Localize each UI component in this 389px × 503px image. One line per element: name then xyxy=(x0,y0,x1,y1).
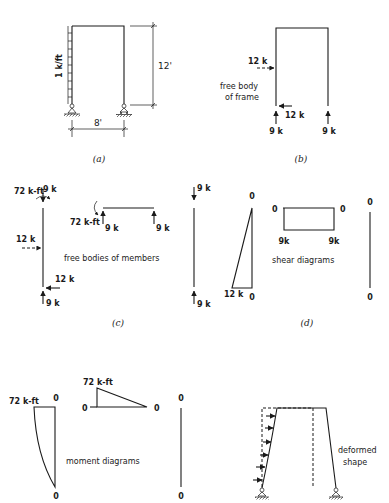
caption-a: (a) xyxy=(93,154,106,164)
deformed-shape-title-2: shape xyxy=(343,458,367,467)
shear-beam-right-zero: 0 xyxy=(340,205,346,214)
beam-moment-label: 72 k-ft xyxy=(70,218,100,227)
shear-left-col-bottom: 0 xyxy=(249,293,255,302)
panel-moment-diagrams: 72 k-ft 0 0 72 k-ft 0 0 moment diagrams … xyxy=(9,378,184,501)
caption-d: (d) xyxy=(301,318,314,328)
shear-left-col-top: 0 xyxy=(249,192,255,201)
shear-beam-right-value: 9k xyxy=(329,237,341,246)
beam-left-force-label: 9 k xyxy=(105,224,119,233)
distributed-load-icon xyxy=(68,26,72,104)
panel-b-free-body: 12 k free body of frame 12 k 9 k 9 k (b) xyxy=(220,28,337,164)
load-label: 1 k/ft xyxy=(55,54,64,78)
moment-left-col-top: 0 xyxy=(53,394,59,403)
frame-analysis-figure: 1 k/ft 12' 8' (a) xyxy=(0,0,389,503)
moment-right-col-top: 0 xyxy=(178,394,184,403)
shear-beam-left-zero: 0 xyxy=(272,205,278,214)
deformed-load-arrows-icon xyxy=(253,416,275,480)
moment-beam-right-zero: 0 xyxy=(154,404,160,413)
pin-support-icon xyxy=(64,104,80,117)
deformed-pin-support-icon xyxy=(255,488,269,500)
shear-right-col-bottom: 0 xyxy=(367,293,373,302)
height-label: 12' xyxy=(158,61,172,71)
panel-d-shear-diagrams: 0 12 k 0 0 0 9k 9k shear diagrams 0 0 (d… xyxy=(224,192,373,328)
moment-beam-value: 72 k-ft xyxy=(83,378,113,387)
right-col-bottom-force-label: 9 k xyxy=(197,300,211,309)
beam-right-force-label: 9 k xyxy=(156,224,170,233)
left-col-side-force-label: 12 k xyxy=(16,235,36,244)
panel-c-member-free-bodies: 72 k-ft 9 k 12 k 12 k 9 k 72 k-ft 9 k 9 … xyxy=(14,184,211,328)
free-body-title-1: free body xyxy=(220,82,258,91)
left-col-moment-label: 72 k-ft xyxy=(14,187,44,196)
width-dimension: 8' xyxy=(68,118,128,137)
moment-right-col-bottom: 0 xyxy=(178,492,184,501)
panel-a-frame: 1 k/ft 12' 8' (a) xyxy=(55,22,172,164)
bottom-force-label: 12 k xyxy=(285,111,305,120)
shear-right-col-top: 0 xyxy=(367,198,373,207)
moment-diagrams-title: moment diagrams xyxy=(66,457,140,466)
left-col-bottom-reaction-label: 9 k xyxy=(46,299,60,308)
moment-left-col-bottom: 0 xyxy=(53,492,59,501)
free-body-title-2: of frame xyxy=(225,93,259,102)
beam-moment-arrow-icon xyxy=(94,201,98,215)
member-free-bodies-title: free bodies of members xyxy=(64,254,159,263)
shear-beam-left-value: 9k xyxy=(279,237,291,246)
shear-left-col-bottom-value: 12 k xyxy=(224,290,244,299)
left-reaction-label: 9 k xyxy=(269,127,283,136)
moment-left-col-value: 72 k-ft xyxy=(9,397,39,406)
deformed-shape-title-1: deformed xyxy=(338,446,377,455)
shear-diagrams-title: shear diagrams xyxy=(272,256,334,265)
left-col-bottom-shear-label: 12 k xyxy=(55,275,75,284)
right-col-top-force-label: 9 k xyxy=(197,184,211,193)
caption-c: (c) xyxy=(112,318,125,328)
height-dimension: 12' xyxy=(130,22,172,109)
deformed-roller-support-icon xyxy=(329,488,343,500)
left-col-top-force-label: 9 k xyxy=(43,185,57,194)
moment-beam-left-zero: 0 xyxy=(82,404,88,413)
roller-support-icon xyxy=(116,104,132,117)
caption-b: (b) xyxy=(295,154,308,164)
right-reaction-label: 9 k xyxy=(322,127,336,136)
panel-deformed-shape: deformed shape xyxy=(253,408,377,500)
width-label: 8' xyxy=(94,118,102,128)
top-force-label: 12 k xyxy=(248,57,268,66)
